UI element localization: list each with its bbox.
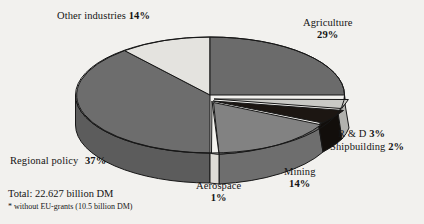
slice-label-rd: R & D 3% — [338, 128, 385, 140]
slice-label-rd-name: R & D — [338, 128, 367, 139]
slice-label-aerospace: Aerospace 1% — [196, 180, 241, 204]
slice-label-aerospace-pct: 1% — [196, 192, 241, 204]
slice-label-mining: Mining 14% — [284, 166, 316, 190]
slice-top-agriculture — [210, 37, 345, 95]
slice-label-mining-name: Mining — [284, 166, 316, 178]
slice-label-other-industries-name: Other industries — [57, 10, 126, 21]
slice-label-agriculture-pct: 29% — [303, 29, 353, 41]
slice-label-shipbuilding-name: Shipbuilding — [330, 141, 385, 152]
slice-label-aerospace-name: Aerospace — [196, 180, 241, 192]
slice-label-regional-policy-name: Regional policy — [10, 155, 78, 166]
slice-label-agriculture: Agriculture 29% — [303, 17, 353, 41]
slice-label-shipbuilding-pct: 2% — [388, 141, 404, 152]
slice-label-other-industries: Other industries 14% — [57, 10, 150, 22]
slice-label-shipbuilding: Shipbuilding 2% — [330, 141, 404, 153]
total-label: Total: 22.627 billion DM — [8, 188, 132, 199]
slice-label-other-industries-pct: 14% — [129, 10, 150, 21]
slice-label-mining-pct: 14% — [284, 178, 316, 190]
slice-label-regional-policy: Regional policy 37% — [10, 155, 106, 167]
slice-label-agriculture-name: Agriculture — [303, 17, 353, 29]
pie-chart: Other industries 14% Agriculture 29% R &… — [0, 0, 424, 224]
slice-label-regional-policy-pct: 37% — [85, 155, 106, 166]
chart-footnotes: Total: 22.627 billion DM * without EU-gr… — [8, 188, 132, 211]
footnote-label: * without EU-grants (10.5 billion DM) — [8, 202, 132, 211]
slice-label-rd-pct: 3% — [369, 128, 385, 139]
